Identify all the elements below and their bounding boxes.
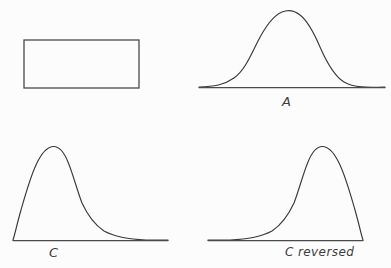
curve-a-group (199, 11, 385, 88)
curve-c-reversed-group (208, 146, 363, 240)
figure-canvas: A C C reversed (0, 0, 391, 268)
curve-c-reversed-label: C reversed (285, 246, 354, 258)
curve-c-path (13, 146, 168, 240)
curve-c-reversed-path (208, 146, 363, 240)
distribution-shapes-figure (0, 0, 391, 268)
curve-c-label: C (49, 246, 58, 259)
curve-a-path (199, 11, 385, 88)
curve-c-group (13, 146, 168, 240)
curve-a-label: A (282, 95, 291, 108)
rectangular-distribution-box (24, 40, 139, 88)
